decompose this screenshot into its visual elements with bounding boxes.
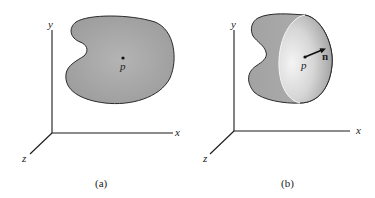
normal-n-label: n: [322, 50, 328, 62]
z-axis-label: z: [202, 152, 208, 164]
z-axis-label: z: [21, 152, 27, 164]
panel-b: y x z p n (b): [202, 14, 361, 190]
caption-b: (b): [281, 177, 294, 190]
panel-a: y x z p (a): [21, 16, 180, 190]
x-axis-label: x: [174, 126, 180, 138]
y-axis-label: y: [230, 18, 236, 30]
figure-canvas: y x z p (a) y x z p n (b): [0, 0, 375, 198]
z-axis: [30, 133, 52, 154]
z-axis: [210, 131, 234, 154]
caption-a: (a): [95, 177, 108, 190]
y-axis-label: y: [47, 18, 53, 30]
x-axis-label: x: [355, 124, 361, 136]
point-p-label: p: [119, 60, 126, 72]
point-p-label: p: [300, 59, 307, 71]
